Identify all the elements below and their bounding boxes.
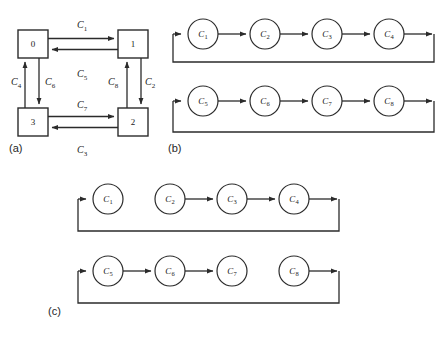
panel-c-label: (c)	[48, 305, 61, 317]
panel-b-r1-node-c2[interactable]: C2	[250, 19, 280, 49]
panel-b-ring-2: C5 C6 C7 C8	[173, 86, 434, 132]
panel-b-r2-node-c5[interactable]: C5	[188, 86, 218, 116]
node-label: 2	[131, 117, 136, 127]
panel-c-ring-2: C5 C6 C7 C8	[78, 256, 339, 303]
panel-c-r2-node-c7[interactable]: C7	[217, 256, 247, 286]
panel-c-r2-node-c8[interactable]: C8	[279, 256, 309, 286]
edge-label: C8	[108, 76, 119, 90]
panel-c-r1-node-c2[interactable]: C2	[155, 184, 185, 214]
edge-label: C1	[77, 19, 88, 33]
panel-b-label: (b)	[168, 142, 181, 154]
panel-b: C1 C2 C3 C4 C5	[168, 19, 434, 154]
edge-label: C6	[45, 76, 56, 90]
panel-a: 0 1 2 3 C1 C5 C2 C8	[9, 19, 156, 158]
edge-label: C2	[145, 76, 156, 90]
panel-b-r2-node-c7[interactable]: C7	[312, 86, 342, 116]
panel-a-edge-c8[interactable]: C8	[108, 62, 127, 108]
panel-a-edge-c3[interactable]: C3	[52, 128, 118, 158]
panel-a-node-2[interactable]: 2	[118, 108, 148, 136]
figure-canvas: 0 1 2 3 C1 C5 C2 C8	[0, 0, 447, 337]
panel-c-r1-node-c1[interactable]: C1	[93, 184, 123, 214]
panel-b-r1-node-c4[interactable]: C4	[374, 19, 404, 49]
edge-label: C4	[11, 76, 22, 90]
panel-c-ring-1: C1 C2 C3 C4	[78, 184, 339, 231]
panel-c: C1 C2 C3 C4 C5	[48, 184, 339, 317]
panel-a-node-3[interactable]: 3	[18, 108, 48, 136]
panel-b-r1-node-c1[interactable]: C1	[188, 19, 218, 49]
panel-a-node-0[interactable]: 0	[18, 30, 48, 58]
edge-label: C5	[77, 68, 88, 82]
panel-a-label: (a)	[9, 142, 22, 154]
node-label: 1	[131, 39, 136, 49]
panel-a-edge-c2[interactable]: C2	[141, 58, 156, 104]
panel-b-r2-node-c8[interactable]: C8	[374, 86, 404, 116]
edge-label: C7	[77, 99, 88, 113]
panel-b-r2-node-c6[interactable]: C6	[250, 86, 280, 116]
panel-a-edge-c6[interactable]: C6	[39, 58, 56, 104]
panel-c-r1-node-c4[interactable]: C4	[279, 184, 309, 214]
panel-b-r1-node-c3[interactable]: C3	[312, 19, 342, 49]
panel-c-r1-node-c3[interactable]: C3	[217, 184, 247, 214]
panel-b-ring-1: C1 C2 C3 C4	[173, 19, 434, 62]
panel-c-r2-node-c5[interactable]: C5	[93, 256, 123, 286]
panel-c-r2-node-c6[interactable]: C6	[155, 256, 185, 286]
node-label: 3	[31, 117, 36, 127]
panel-a-edge-c4[interactable]: C4	[11, 62, 25, 108]
node-label: 0	[31, 39, 36, 49]
panel-a-edge-c7[interactable]: C7	[48, 99, 114, 117]
edge-label: C3	[77, 144, 88, 158]
panel-a-node-1[interactable]: 1	[118, 30, 148, 58]
panel-a-edge-c1[interactable]: C1	[48, 19, 114, 39]
